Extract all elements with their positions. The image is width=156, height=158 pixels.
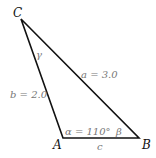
side-a-label: a = 3.0 — [81, 69, 118, 80]
side-c-label: c — [97, 141, 103, 152]
triangle-shape — [21, 19, 139, 138]
side-b-label: b = 2.0 — [10, 89, 48, 100]
angle-alpha-label: α = 110° — [65, 126, 111, 137]
triangle-diagram: C A B γ a = 3.0 b = 2.0 α = 110° β c — [0, 0, 156, 158]
angle-gamma-label: γ — [36, 49, 42, 60]
vertex-c-label: C — [13, 6, 22, 20]
vertex-b-label: B — [141, 138, 151, 152]
angle-beta-label: β — [115, 126, 122, 137]
vertex-a-label: A — [52, 138, 62, 152]
